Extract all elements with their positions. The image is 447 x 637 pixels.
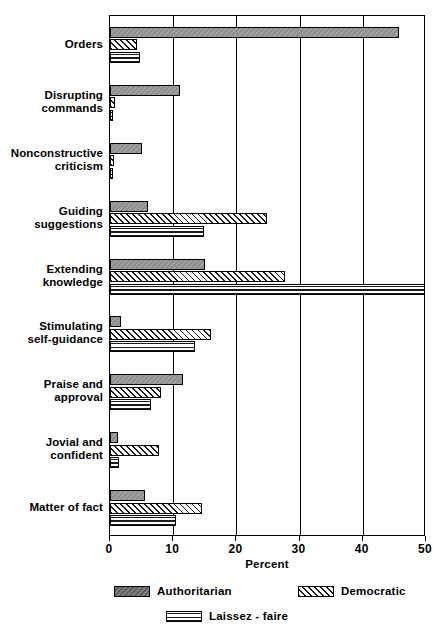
- bar-auth: [110, 432, 118, 443]
- bar-auth: [110, 316, 121, 327]
- category-label-line: Disrupting: [3, 89, 103, 102]
- bar-auth: [110, 27, 399, 38]
- bar-auth: [110, 490, 145, 501]
- x-axis-title: Percent: [109, 558, 425, 570]
- gridline: [363, 16, 364, 535]
- x-axis-tick-label: 40: [355, 542, 369, 556]
- bar-dem: [110, 387, 161, 398]
- category-label: Disruptingcommands: [3, 89, 103, 115]
- bar-dem: [110, 271, 285, 282]
- bar-laissez: [110, 110, 113, 121]
- x-axis-tick-label: 0: [106, 542, 113, 556]
- legend-swatch-laissez-faire-icon: [166, 611, 202, 622]
- bar-dem: [110, 329, 211, 340]
- category-label-line: Nonconstructive: [3, 147, 103, 160]
- category-label: Matter of fact: [3, 501, 103, 514]
- bar-dem: [110, 445, 159, 456]
- x-axis-tick-label: 50: [418, 542, 432, 556]
- gridline: [300, 16, 301, 535]
- category-label: Nonconstructivecriticism: [3, 147, 103, 173]
- legend-item-authoritarian: Authoritarian: [114, 585, 232, 597]
- x-axis-tick: [299, 536, 300, 541]
- category-label-line: confident: [3, 449, 103, 462]
- category-label-line: Stimulating: [3, 320, 103, 333]
- legend-swatch-authoritarian-icon: [114, 586, 150, 597]
- bar-auth: [110, 374, 183, 385]
- category-label-line: Extending: [3, 263, 103, 276]
- bar-auth: [110, 259, 205, 270]
- x-axis-tick: [235, 536, 236, 541]
- x-axis-tick: [109, 536, 110, 541]
- category-label-line: approval: [3, 391, 103, 404]
- bar-dem: [110, 39, 137, 50]
- x-axis-tick: [172, 536, 173, 541]
- bar-auth: [110, 85, 180, 96]
- category-label-line: Orders: [3, 37, 103, 50]
- bar-dem: [110, 97, 115, 108]
- x-axis-tick: [425, 536, 426, 541]
- chart-legend: Authoritarian Democratic Laissez - faire: [0, 583, 447, 633]
- category-label-line: self-guidance: [3, 333, 103, 346]
- legend-label-authoritarian: Authoritarian: [157, 585, 232, 597]
- bar-laissez: [110, 515, 176, 526]
- bar-laissez: [110, 284, 425, 295]
- category-label-line: commands: [3, 102, 103, 115]
- bar-laissez: [110, 341, 195, 352]
- bar-dem: [110, 155, 114, 166]
- category-label: Extendingknowledge: [3, 263, 103, 289]
- x-axis-tick-label: 10: [165, 542, 179, 556]
- x-axis-tick-label: 20: [228, 542, 242, 556]
- category-label: Praise andapproval: [3, 378, 103, 404]
- bar-dem: [110, 503, 202, 514]
- category-label-line: criticism: [3, 160, 103, 173]
- plot-area: [109, 15, 425, 536]
- category-label: Orders: [3, 37, 103, 50]
- category-label-line: Jovial and: [3, 436, 103, 449]
- bar-laissez: [110, 168, 113, 179]
- bar-laissez: [110, 226, 204, 237]
- bar-chart-figure: OrdersDisruptingcommandsNonconstructivec…: [0, 0, 447, 637]
- legend-item-laissez-faire: Laissez - faire: [166, 610, 288, 622]
- x-axis-tick-label: 30: [292, 542, 306, 556]
- bar-laissez: [110, 52, 140, 63]
- legend-label-democratic: Democratic: [341, 585, 406, 597]
- bar-dem: [110, 213, 267, 224]
- category-label-line: Guiding: [3, 205, 103, 218]
- legend-item-democratic: Democratic: [298, 585, 406, 597]
- x-axis-tick: [362, 536, 363, 541]
- category-label: Jovial andconfident: [3, 436, 103, 462]
- category-label-line: knowledge: [3, 276, 103, 289]
- category-label-line: Praise and: [3, 378, 103, 391]
- bar-auth: [110, 201, 148, 212]
- legend-label-laissez-faire: Laissez - faire: [209, 610, 288, 622]
- category-labels-column: OrdersDisruptingcommandsNonconstructivec…: [0, 0, 103, 637]
- bar-laissez: [110, 457, 119, 468]
- category-label-line: Matter of fact: [3, 501, 103, 514]
- bar-laissez: [110, 399, 151, 410]
- category-label: Guidingsuggestions: [3, 205, 103, 231]
- category-label: Stimulatingself-guidance: [3, 320, 103, 346]
- legend-swatch-democratic-icon: [298, 586, 334, 597]
- category-label-line: suggestions: [3, 218, 103, 231]
- bar-auth: [110, 143, 142, 154]
